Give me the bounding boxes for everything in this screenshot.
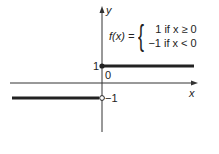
formula-case: −1 if x < 0 — [148, 36, 196, 50]
tick-label-one: 1 — [93, 61, 99, 72]
formula-cases: 1 if x ≥ 0 −1 if x < 0 — [148, 22, 196, 50]
x-axis-label: x — [189, 88, 195, 99]
function-graph: y x 0 1 −1 f(x) = { 1 if x ≥ 0 −1 if x <… — [0, 0, 219, 154]
brace-icon: { — [138, 21, 144, 51]
origin-label: 0 — [105, 70, 111, 81]
y-axis-label: y — [106, 5, 112, 16]
closed-point-icon — [99, 63, 104, 68]
x-axis-arrow-icon — [191, 81, 198, 86]
formula-case: 1 if x ≥ 0 — [148, 22, 196, 36]
tick-label-minus-one: −1 — [105, 93, 118, 104]
y-axis-arrow-icon — [100, 6, 105, 13]
open-point-icon — [100, 96, 105, 101]
formula-lhs: f(x) = — [109, 30, 134, 42]
piecewise-formula: f(x) = { 1 if x ≥ 0 −1 if x < 0 — [109, 21, 197, 51]
